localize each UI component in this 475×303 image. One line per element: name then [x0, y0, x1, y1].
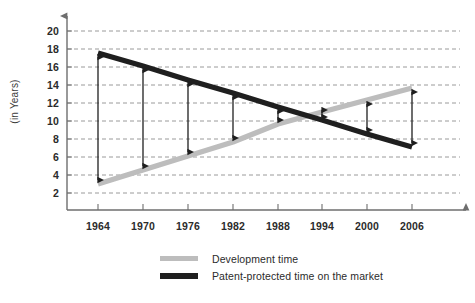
- chart-container: 20 18 16 14 12 10 8 6 4 2 1964 1970 1976…: [0, 0, 475, 303]
- legend-swatch-patent-protected-time: [160, 273, 198, 279]
- legend-label-patent-protected-time: Patent-protected time on the market: [212, 270, 383, 282]
- y-axis-title: (in Years): [9, 62, 20, 142]
- gap-arrow-annotations: [98, 57, 412, 180]
- y-tick-2: 2: [33, 187, 59, 199]
- x-tick-2000: 2000: [345, 220, 389, 232]
- legend-swatch-development-time: [160, 256, 198, 261]
- x-tick-1964: 1964: [76, 220, 120, 232]
- y-tick-14: 14: [33, 79, 59, 91]
- y-tick-12: 12: [33, 97, 59, 109]
- chart-legend: Development time Patent-protected time o…: [160, 250, 460, 284]
- legend-label-development-time: Development time: [212, 253, 298, 265]
- y-tick-4: 4: [33, 169, 59, 181]
- axis-lines: [67, 16, 466, 210]
- legend-item-patent-protected-time: Patent-protected time on the market: [160, 267, 460, 284]
- y-tick-6: 6: [33, 151, 59, 163]
- x-tick-1988: 1988: [256, 220, 300, 232]
- y-tick-18: 18: [33, 43, 59, 55]
- y-tick-10: 10: [33, 115, 59, 127]
- y-axis-title-text: (in Years): [9, 79, 20, 123]
- y-tick-20: 20: [33, 25, 59, 37]
- x-tick-1982: 1982: [211, 220, 255, 232]
- y-tick-16: 16: [33, 61, 59, 73]
- y-tick-8: 8: [33, 133, 59, 145]
- x-tick-1970: 1970: [121, 220, 165, 232]
- gridlines: [67, 31, 460, 193]
- legend-item-development-time: Development time: [160, 250, 460, 267]
- x-tick-1976: 1976: [166, 220, 210, 232]
- x-tick-1994: 1994: [300, 220, 344, 232]
- x-tick-2006: 2006: [390, 220, 434, 232]
